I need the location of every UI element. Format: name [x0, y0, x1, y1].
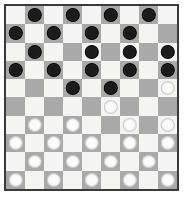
- board-square[interactable]: [63, 61, 82, 79]
- board-square[interactable]: [158, 152, 177, 170]
- white-piece-icon[interactable]: [8, 173, 22, 187]
- board-square[interactable]: [120, 79, 139, 97]
- board-square[interactable]: [82, 6, 101, 24]
- black-piece-icon[interactable]: [46, 26, 60, 40]
- board-square[interactable]: [158, 116, 177, 134]
- board-square[interactable]: [25, 79, 44, 97]
- white-piece-icon[interactable]: [8, 136, 22, 150]
- board-square[interactable]: [139, 24, 158, 42]
- board-square[interactable]: [63, 152, 82, 170]
- board-square[interactable]: [44, 24, 63, 42]
- board-square[interactable]: [82, 171, 101, 189]
- black-piece-icon[interactable]: [65, 8, 79, 22]
- board-square[interactable]: [44, 79, 63, 97]
- black-piece-icon[interactable]: [141, 8, 155, 22]
- board-square[interactable]: [25, 116, 44, 134]
- black-piece-icon[interactable]: [122, 45, 136, 59]
- board-square[interactable]: [63, 97, 82, 115]
- board-square[interactable]: [101, 134, 120, 152]
- board-square[interactable]: [158, 171, 177, 189]
- board-square[interactable]: [6, 43, 25, 61]
- white-piece-icon[interactable]: [103, 100, 117, 114]
- board-square[interactable]: [63, 6, 82, 24]
- white-piece-icon[interactable]: [160, 173, 174, 187]
- white-piece-icon[interactable]: [160, 118, 174, 132]
- black-piece-icon[interactable]: [84, 26, 98, 40]
- black-piece-icon[interactable]: [65, 81, 79, 95]
- board-square[interactable]: [158, 134, 177, 152]
- board-square[interactable]: [44, 43, 63, 61]
- board-square[interactable]: [44, 134, 63, 152]
- black-piece-icon[interactable]: [8, 63, 22, 77]
- board-square[interactable]: [6, 6, 25, 24]
- white-piece-icon[interactable]: [46, 136, 60, 150]
- board-square[interactable]: [101, 6, 120, 24]
- white-piece-icon[interactable]: [122, 173, 136, 187]
- white-piece-icon[interactable]: [160, 81, 174, 95]
- white-piece-icon[interactable]: [84, 136, 98, 150]
- black-piece-icon[interactable]: [160, 45, 174, 59]
- board-square[interactable]: [158, 43, 177, 61]
- black-piece-icon[interactable]: [8, 26, 22, 40]
- white-piece-icon[interactable]: [103, 155, 117, 169]
- board-square[interactable]: [6, 134, 25, 152]
- board-square[interactable]: [6, 116, 25, 134]
- black-piece-icon[interactable]: [84, 45, 98, 59]
- board-square[interactable]: [25, 152, 44, 170]
- board-square[interactable]: [158, 97, 177, 115]
- board-square[interactable]: [44, 171, 63, 189]
- white-piece-icon[interactable]: [84, 173, 98, 187]
- board-square[interactable]: [120, 6, 139, 24]
- board-square[interactable]: [139, 152, 158, 170]
- black-piece-icon[interactable]: [46, 63, 60, 77]
- white-piece-icon[interactable]: [27, 155, 41, 169]
- board-square[interactable]: [6, 24, 25, 42]
- board-square[interactable]: [139, 134, 158, 152]
- board-square[interactable]: [44, 152, 63, 170]
- board-square[interactable]: [158, 24, 177, 42]
- board-square[interactable]: [139, 116, 158, 134]
- board-square[interactable]: [63, 43, 82, 61]
- board-square[interactable]: [44, 116, 63, 134]
- black-piece-icon[interactable]: [84, 63, 98, 77]
- board-square[interactable]: [63, 79, 82, 97]
- board-square[interactable]: [82, 61, 101, 79]
- board-square[interactable]: [63, 171, 82, 189]
- board-square[interactable]: [101, 61, 120, 79]
- board-square[interactable]: [44, 97, 63, 115]
- black-piece-icon[interactable]: [160, 63, 174, 77]
- board-square[interactable]: [6, 171, 25, 189]
- board-square[interactable]: [101, 24, 120, 42]
- board-square[interactable]: [25, 61, 44, 79]
- board-square[interactable]: [139, 43, 158, 61]
- board-square[interactable]: [63, 24, 82, 42]
- board-square[interactable]: [6, 152, 25, 170]
- board-square[interactable]: [120, 116, 139, 134]
- board-grid[interactable]: [6, 6, 177, 189]
- board-square[interactable]: [25, 43, 44, 61]
- board-square[interactable]: [25, 6, 44, 24]
- board-square[interactable]: [101, 116, 120, 134]
- board-square[interactable]: [63, 134, 82, 152]
- board-square[interactable]: [139, 171, 158, 189]
- board-square[interactable]: [82, 79, 101, 97]
- board-square[interactable]: [101, 79, 120, 97]
- white-piece-icon[interactable]: [65, 118, 79, 132]
- black-piece-icon[interactable]: [27, 45, 41, 59]
- board-square[interactable]: [120, 152, 139, 170]
- board-square[interactable]: [120, 24, 139, 42]
- board-square[interactable]: [82, 43, 101, 61]
- board-square[interactable]: [101, 152, 120, 170]
- board-square[interactable]: [158, 6, 177, 24]
- black-piece-icon[interactable]: [103, 8, 117, 22]
- board-square[interactable]: [120, 61, 139, 79]
- board-square[interactable]: [101, 171, 120, 189]
- black-piece-icon[interactable]: [122, 63, 136, 77]
- board-square[interactable]: [25, 134, 44, 152]
- white-piece-icon[interactable]: [27, 118, 41, 132]
- board-square[interactable]: [82, 152, 101, 170]
- board-square[interactable]: [44, 6, 63, 24]
- board-square[interactable]: [6, 61, 25, 79]
- board-square[interactable]: [25, 97, 44, 115]
- board-square[interactable]: [158, 79, 177, 97]
